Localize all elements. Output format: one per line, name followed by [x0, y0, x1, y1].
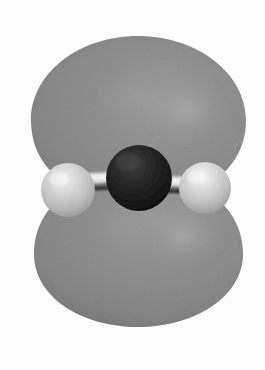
- molecular-orbital-figure: [0, 0, 265, 370]
- central-atom-sphere: [106, 145, 172, 211]
- hydrogen-left-sphere: [41, 163, 95, 217]
- hydrogen-right-specular: [187, 170, 207, 184]
- hydrogen-left-specular: [49, 172, 69, 186]
- central-atom-specular: [115, 153, 141, 171]
- hydrogen-left: [41, 163, 95, 217]
- hydrogen-right-sphere: [179, 162, 231, 214]
- central-atom: [106, 145, 172, 211]
- hydrogen-right: [179, 162, 231, 214]
- orbital-render-canvas: [0, 0, 265, 370]
